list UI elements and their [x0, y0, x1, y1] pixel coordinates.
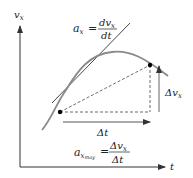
- tangent-line: [52, 23, 130, 103]
- instantaneous-acceleration-formula: ax = dvx dt: [73, 17, 117, 41]
- delta-v-label: Δvx: [164, 87, 182, 100]
- point-start: [58, 110, 62, 114]
- point-end: [148, 63, 152, 67]
- delta-t-label: Δt: [96, 127, 109, 138]
- svg-text:=: =: [88, 22, 97, 35]
- svg-text:ax: ax: [73, 22, 84, 36]
- svg-text:Δt: Δt: [111, 154, 124, 165]
- average-acceleration-formula: axmoy = Δvx Δt: [74, 140, 130, 165]
- svg-text:dvx: dvx: [99, 17, 115, 30]
- secant-line: [60, 65, 150, 112]
- svg-text:dt: dt: [101, 30, 112, 41]
- svg-text:=: =: [100, 145, 109, 158]
- svg-text:axmoy: axmoy: [74, 146, 95, 161]
- y-axis-label: vx: [14, 9, 24, 22]
- x-axis-label: t: [170, 161, 175, 172]
- svg-text:Δvx: Δvx: [109, 140, 127, 153]
- velocity-time-diagram: vx t Δt Δvx ax = dvx dt axmoy = Δvx Δt: [0, 0, 193, 178]
